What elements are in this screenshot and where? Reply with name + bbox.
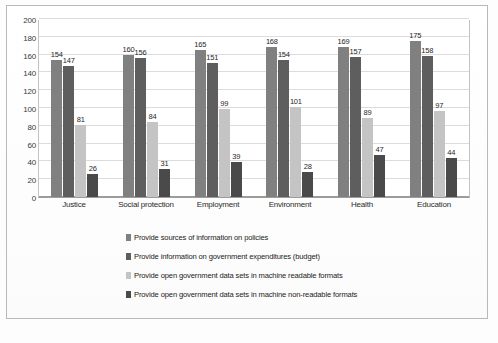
bar-value-label: 169	[338, 37, 350, 46]
bar[interactable]	[302, 172, 313, 197]
bar-wrapper: 175	[410, 20, 421, 197]
bar-value-label: 147	[63, 56, 75, 65]
bar-value-label: 175	[409, 31, 421, 40]
y-axis-tick: 160	[23, 51, 36, 60]
bar[interactable]	[231, 162, 242, 197]
bar-value-label: 168	[266, 37, 278, 46]
y-axis-tick: 200	[23, 16, 36, 25]
bar-group: 1601568431	[111, 20, 183, 197]
bar-wrapper: 165	[195, 20, 206, 197]
bar[interactable]	[87, 174, 98, 197]
y-axis-tick: 100	[23, 105, 36, 114]
x-axis-label-justice: Justice	[38, 200, 110, 209]
legend-swatch-icon	[126, 253, 131, 260]
bar-value-label: 156	[135, 48, 147, 57]
legend-item[interactable]: Provide open government data sets in mac…	[126, 285, 426, 304]
bar[interactable]	[338, 47, 349, 197]
bar-value-label: 151	[206, 53, 218, 62]
bar[interactable]	[434, 111, 445, 197]
x-axis-label-health: Health	[326, 200, 398, 209]
gridline	[39, 18, 469, 19]
bar-value-label: 154	[51, 50, 63, 59]
bar-group-bars: 1601568431	[123, 20, 170, 197]
bar-group-bars: 1651519939	[195, 20, 242, 197]
legend-item[interactable]: Provide information on government expend…	[126, 247, 426, 266]
bar-value-label: 26	[89, 164, 97, 173]
bar[interactable]	[207, 63, 218, 197]
bar[interactable]	[219, 109, 230, 197]
bar[interactable]	[135, 58, 146, 197]
bar-wrapper: 156	[135, 20, 146, 197]
bar-group-bars: 1541478126	[51, 20, 98, 197]
bar-value-label: 44	[447, 148, 455, 157]
legend-swatch-icon	[126, 291, 131, 298]
bar-wrapper: 157	[350, 20, 361, 197]
legend-swatch-icon	[126, 272, 131, 279]
chart-legend: Provide sources of information on polici…	[126, 228, 426, 304]
bar-groups: 1541478126160156843116515199391681541012…	[39, 20, 469, 197]
y-axis-tick: 60	[28, 140, 37, 149]
bar-wrapper: 47	[374, 20, 385, 197]
bar-value-label: 165	[194, 40, 206, 49]
bar[interactable]	[374, 155, 385, 197]
bar-group: 1691578947	[326, 20, 398, 197]
bar[interactable]	[266, 47, 277, 197]
bar-group-bars: 1751589744	[410, 20, 457, 197]
bar[interactable]	[422, 56, 433, 197]
bar-wrapper: 81	[75, 20, 86, 197]
bar-value-label: 84	[149, 112, 157, 121]
bar-wrapper: 147	[63, 20, 74, 197]
y-axis-tick-labels: 200180160140120100806040200	[14, 20, 36, 198]
bar-wrapper: 151	[207, 20, 218, 197]
bar-wrapper: 26	[87, 20, 98, 197]
bar-wrapper: 101	[290, 20, 301, 197]
bar[interactable]	[350, 57, 361, 197]
y-axis-tick: 140	[23, 69, 36, 78]
bar[interactable]	[362, 118, 373, 197]
legend-label: Provide open government data sets in mac…	[134, 290, 357, 299]
bar-wrapper: 160	[123, 20, 134, 197]
bar-wrapper: 31	[159, 20, 170, 197]
bar-wrapper: 169	[338, 20, 349, 197]
legend-swatch-icon	[126, 234, 131, 241]
x-axis-category-labels: JusticeSocial protectionEmploymentEnviro…	[38, 200, 470, 209]
legend-item[interactable]: Provide sources of information on polici…	[126, 228, 426, 247]
y-axis-tick: 120	[23, 87, 36, 96]
legend-item[interactable]: Provide open government data sets in mac…	[126, 266, 426, 285]
bar-value-label: 157	[350, 47, 362, 56]
bar-value-label: 158	[421, 46, 433, 55]
bar-group: 16815410128	[254, 20, 326, 197]
bar[interactable]	[290, 107, 301, 197]
bar-wrapper: 168	[266, 20, 277, 197]
y-axis-tick: 80	[28, 122, 37, 131]
bar[interactable]	[446, 158, 457, 197]
chart-figure: 200180160140120100806040200 154147812616…	[0, 0, 498, 343]
bar[interactable]	[278, 60, 289, 197]
bar-group: 1651519939	[182, 20, 254, 197]
bar[interactable]	[75, 125, 86, 197]
bar[interactable]	[410, 41, 421, 197]
legend-label: Provide information on government expend…	[134, 252, 320, 261]
bar[interactable]	[147, 122, 158, 197]
bar-group: 1541478126	[39, 20, 111, 197]
bar-wrapper: 154	[51, 20, 62, 197]
x-axis-label-employment: Employment	[182, 200, 254, 209]
bar-value-label: 89	[364, 108, 372, 117]
bar-value-label: 31	[161, 159, 169, 168]
y-axis-tick: 40	[28, 158, 37, 167]
y-axis-tick: 20	[28, 176, 37, 185]
bar-wrapper: 89	[362, 20, 373, 197]
bar-wrapper: 44	[446, 20, 457, 197]
bar[interactable]	[195, 50, 206, 197]
bar-value-label: 160	[123, 45, 135, 54]
bar[interactable]	[51, 60, 62, 197]
bar-value-label: 154	[278, 50, 290, 59]
bar[interactable]	[159, 169, 170, 197]
bar-value-label: 39	[232, 152, 240, 161]
bar-value-label: 99	[220, 99, 228, 108]
bar-value-label: 81	[77, 115, 85, 124]
bar[interactable]	[123, 55, 134, 197]
bar[interactable]	[63, 66, 74, 197]
bar-wrapper: 84	[147, 20, 158, 197]
plot-area: 1541478126160156843116515199391681541012…	[38, 20, 470, 198]
